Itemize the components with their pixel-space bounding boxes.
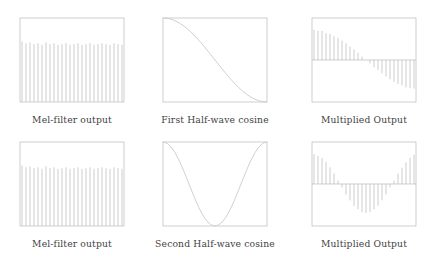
panel-multiplied-output-row2: Multiplied Output xyxy=(300,139,428,250)
multiplied-output-plot-1 xyxy=(309,15,419,105)
mfcc-dct-figure: Mel-filter output First Half-wave cosine… xyxy=(0,0,440,268)
panel-multiplied-output-row1: Multiplied Output xyxy=(300,15,428,126)
panel-caption: Multiplied Output xyxy=(300,114,428,126)
second-half-wave-cosine-plot xyxy=(160,139,270,229)
panel-caption: Multiplied Output xyxy=(300,238,428,250)
mel-filter-output-plot-1 xyxy=(17,15,127,105)
second-half-wave-cosine-chart xyxy=(160,139,270,229)
panel-second-half-wave-cosine: Second Half-wave cosine xyxy=(151,139,279,250)
multiplied-output-chart-2 xyxy=(309,139,419,229)
first-half-wave-cosine-chart xyxy=(160,15,270,105)
panel-caption: Mel-filter output xyxy=(8,114,136,126)
panel-caption: Second Half-wave cosine xyxy=(151,238,279,250)
panel-first-half-wave-cosine: First Half-wave cosine xyxy=(151,15,279,126)
first-half-wave-cosine-plot xyxy=(160,15,270,105)
multiplied-output-chart-1 xyxy=(309,15,419,105)
panel-caption: Mel-filter output xyxy=(8,238,136,250)
mel-filter-output-chart-1 xyxy=(17,15,127,105)
panel-mel-filter-output-row1: Mel-filter output xyxy=(8,15,136,126)
multiplied-output-plot-2 xyxy=(309,139,419,229)
mel-filter-output-plot-2 xyxy=(17,139,127,229)
mel-filter-output-chart-2 xyxy=(17,139,127,229)
panel-mel-filter-output-row2: Mel-filter output xyxy=(8,139,136,250)
panel-caption: First Half-wave cosine xyxy=(151,114,279,126)
